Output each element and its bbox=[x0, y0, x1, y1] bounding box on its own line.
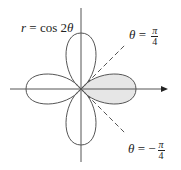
polar-rose-figure: r = cos 2θ θ = π4 θ = −π4 bbox=[0, 0, 181, 170]
upper-angle-label: θ = π4 bbox=[129, 26, 158, 47]
lower-angle-label: θ = −π4 bbox=[128, 140, 165, 161]
x-axis-arrow-icon bbox=[161, 86, 168, 92]
curve-equation-label: r = cos 2θ bbox=[21, 20, 73, 36]
